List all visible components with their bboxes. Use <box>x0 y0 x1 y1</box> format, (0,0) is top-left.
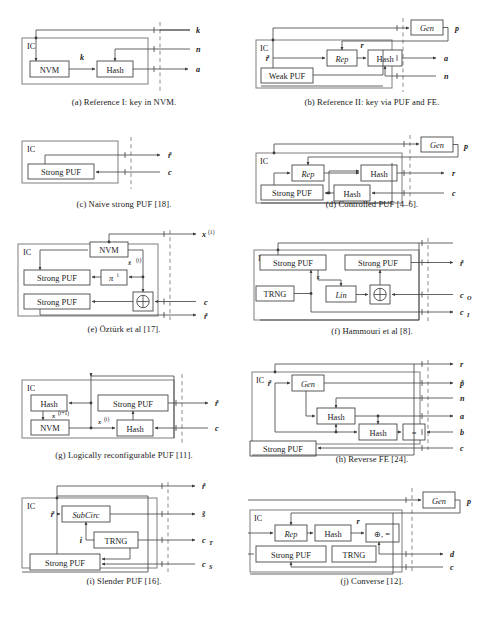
panel-a: IC NVM Hash k k n a <box>0 8 248 118</box>
wire-to-gen-d <box>274 144 419 153</box>
wire-frame-j <box>250 513 393 574</box>
signal-label-r-h: r <box>460 360 464 369</box>
wire-p-feedback-j <box>291 513 460 525</box>
block-hash-j-label: Hash <box>324 530 342 539</box>
wire-rtilde-e <box>40 309 196 315</box>
wire-gen-out-j <box>455 500 460 513</box>
signal-label-x1-sup-e: (1) <box>208 229 215 236</box>
block-strong-puf-h-label: Strong PUF <box>263 445 303 454</box>
signal-r-b: r <box>360 41 364 50</box>
signal-label-cI-sub-f: I <box>466 311 470 318</box>
block-gen-j-label: Gen <box>432 497 446 506</box>
caption-g: (g) Logically reconfigurable PUF [11]. <box>0 450 248 460</box>
block-hash2-d-label: Hash <box>343 190 361 199</box>
wire-x-lin-f <box>318 270 341 286</box>
junction-g-2 <box>90 427 93 430</box>
signal-xtilde-sup-e: (t) <box>136 257 141 264</box>
wire-c-j <box>291 562 443 567</box>
panel-c: IC Strong PUF r̃ c (c) Naive strong PUF … <box>0 133 248 225</box>
block-hash1-h-label: Hash <box>327 413 345 422</box>
signal-label-n-b: n <box>444 72 449 81</box>
signal-label-b-h: b <box>460 428 464 437</box>
block-nvm-a-label: NVM <box>40 66 60 75</box>
signal-label-a-a: a <box>196 65 200 74</box>
caption-i: (i) Slender PUF [16]. <box>0 576 248 586</box>
signal-label-c-h: c <box>460 444 464 453</box>
wire-k-a <box>36 30 190 61</box>
junction-h-2 <box>377 415 380 418</box>
junction-a-1 <box>35 37 38 40</box>
signal-xt1-sup-g: (t+1) <box>58 410 69 417</box>
signal-label-c-j: c <box>450 563 454 572</box>
signal-label-p-b: p <box>454 24 459 33</box>
junction-h-1 <box>274 371 277 374</box>
signal-label-cO-f: c <box>460 291 464 300</box>
junction-f-2 <box>310 292 313 295</box>
block-subcirc-i-label: SubCirc <box>72 511 99 520</box>
block-strong-puf-d-label: Strong PUF <box>272 189 312 198</box>
signal-label-rtilde-i: r̃ <box>202 482 206 491</box>
block-rep-d-label: Rep <box>300 170 314 179</box>
block-trng-i-label: TRNG <box>105 537 128 546</box>
signal-label-c-d: c <box>452 189 456 198</box>
block-hash-b-label: Hash <box>376 55 394 64</box>
block-nvm-e-label: NVM <box>99 246 119 255</box>
block-hash1-d-label: Hash <box>370 170 388 179</box>
block-trng-j-label: TRNG <box>343 551 366 560</box>
ic-label-b: IC <box>260 44 269 53</box>
signal-label-rtilde-c: r̃ <box>168 151 172 160</box>
signal-label-d-j: d <box>450 550 455 559</box>
caption-f: (f) Hammouri et al [8]. <box>248 326 496 336</box>
wire-r-out-h <box>275 364 453 372</box>
signal-i-i: i <box>80 536 83 545</box>
panel-e-diagram: IC NVM Strong PUF π i Strong PUF <box>0 228 248 328</box>
panel-b: IC Gen Weak PUF Rep Hash r̃ <box>248 8 496 118</box>
panel-c-diagram: IC Strong PUF r̃ c <box>0 133 248 203</box>
signal-label-rtilde-g: r̃ <box>215 399 219 408</box>
signal-label-rtilde-e: r̃ <box>204 312 208 321</box>
wire-gen-out-b <box>443 28 448 42</box>
signal-label-ptilde-h: p̃ <box>459 379 465 388</box>
ic-label-j: IC <box>254 514 263 523</box>
block-rep-j-label: Rep <box>283 530 297 539</box>
block-weak-puf-b-label: Weak PUF <box>269 72 306 81</box>
wire-p-feedback-d <box>308 157 458 165</box>
panel-j-diagram: IC Gen Rep Hash ⊕, = Strong PUF TRNG <box>248 480 496 578</box>
wire-trng-puf1-f <box>294 270 311 294</box>
block-gen-b-label: Gen <box>420 24 434 33</box>
signal-rtilde-h: r̃ <box>268 379 272 388</box>
signal-label-cS-i: c <box>202 560 206 569</box>
panel-g: IC Hash NVM Strong PUF Hash x (t+1) <box>0 362 248 478</box>
signal-label-k-a: k <box>196 26 201 35</box>
junction-g-1 <box>90 402 93 405</box>
caption-e: (e) Öztürk et al [17]. <box>0 324 248 334</box>
wire-p-feedback-b <box>342 41 448 50</box>
panel-d: IC Gen Strong PUF Rep Hash Hash <box>248 133 496 225</box>
signal-label-n-a: n <box>196 45 201 54</box>
signal-xt1-g: x <box>51 412 55 419</box>
block-rep-b-label: Rep <box>334 55 348 64</box>
signal-label-a-b: a <box>444 54 448 63</box>
ic-label-d: IC <box>260 157 269 166</box>
signal-label-n-h: n <box>460 394 465 403</box>
ic-label-a: IC <box>27 42 36 51</box>
signal-label-cT-i: c <box>202 536 206 545</box>
panel-f-diagram: IC Strong PUF Strong PUF TRNG Lin <box>248 236 496 328</box>
block-lin-f-label: Lin <box>334 291 346 300</box>
signal-xt-sup-g: (t) <box>104 416 109 423</box>
wire-d-out-j <box>379 546 443 554</box>
block-strong-puf-i-label: Strong PUF <box>45 559 85 568</box>
junction-e-2 <box>142 276 145 279</box>
block-hash2-g-label: Hash <box>126 425 144 434</box>
signal-label-cT-sub-i: T <box>209 539 213 546</box>
wire-x1-e <box>109 234 196 242</box>
signal-label-rtilde-f: r̃ <box>460 259 464 268</box>
panel-h: IC Gen Hash Hash = Strong PUF r̃ <box>248 358 496 478</box>
junction-e-1 <box>108 241 111 244</box>
ic-label-i: IC <box>27 502 36 511</box>
signal-label-c-g: c <box>215 424 219 433</box>
signal-label-cO-sub-f: O <box>467 294 472 301</box>
wire-rtilde-c <box>45 155 160 164</box>
signal-label-cI-f: c <box>460 308 464 317</box>
block-strong-puf-g-label: Strong PUF <box>113 400 153 409</box>
